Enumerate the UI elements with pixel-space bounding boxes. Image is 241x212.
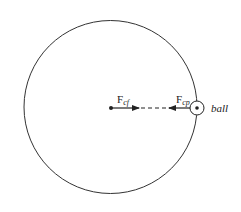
ball-dot [195,106,199,110]
label-ball: ball [211,102,228,114]
label-fcp: Fcp [176,93,190,107]
label-fcf: Fcf [117,93,131,107]
circular-motion-diagram: Fcf Fcp ball [0,0,241,212]
